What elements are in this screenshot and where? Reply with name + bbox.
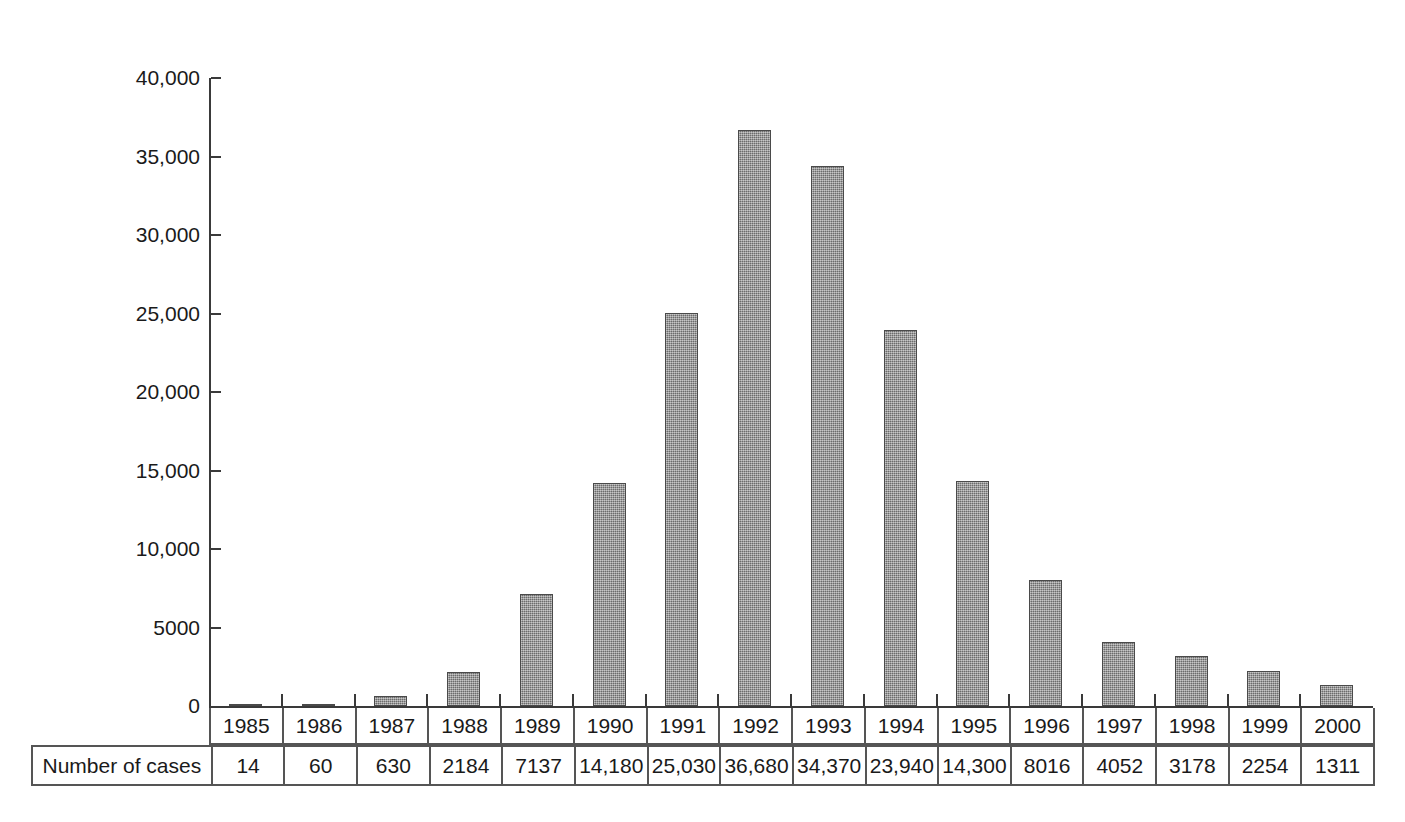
y-axis-tick-label-text: 30,000 [80, 224, 200, 245]
bar [1175, 656, 1208, 706]
bar [738, 130, 771, 706]
value-cell: 23,940 [865, 747, 938, 784]
y-axis-tick-label: 15,000 [60, 460, 200, 481]
column-tick [790, 694, 792, 707]
y-axis-tick-label: 25,000 [60, 303, 200, 324]
y-axis-tick-label: 5000 [60, 617, 200, 638]
bar [520, 594, 553, 706]
y-axis-tick-label: 20,000 [60, 381, 200, 402]
year-header-row: 1985198619871988198919901991199219931994… [209, 708, 1375, 745]
year-cell: 1986 [282, 708, 355, 743]
column-tick [645, 694, 647, 707]
value-cell: 2184 [429, 747, 502, 784]
bar [1247, 671, 1280, 706]
column-tick [1227, 694, 1229, 707]
bar [1320, 685, 1353, 706]
bar [1029, 580, 1062, 706]
values-row: Number of cases 14606302184713714,18025,… [31, 745, 1375, 786]
bar [956, 481, 989, 706]
y-axis-tick-label: 10,000 [60, 538, 200, 559]
plot-area: 0500010,00015,00020,00025,00030,00035,00… [0, 0, 1405, 822]
y-axis-tick [211, 470, 221, 472]
y-axis-tick [211, 627, 221, 629]
bar [447, 672, 480, 706]
column-tick [426, 694, 428, 707]
row-label-number-of-cases: Number of cases [33, 747, 211, 784]
year-cell: 1993 [791, 708, 864, 743]
value-cell: 4052 [1082, 747, 1155, 784]
bar [665, 313, 698, 706]
y-axis-tick-label-text: 35,000 [80, 146, 200, 167]
column-tick [1081, 694, 1083, 707]
y-axis-tick [211, 234, 221, 236]
year-cell: 1997 [1082, 708, 1155, 743]
column-tick [1008, 694, 1010, 707]
value-cell: 25,030 [647, 747, 720, 784]
bar [374, 696, 407, 706]
y-axis-tick-label-text: 40,000 [80, 67, 200, 88]
chart-figure: 0500010,00015,00020,00025,00030,00035,00… [0, 0, 1405, 822]
year-cell: 1988 [427, 708, 500, 743]
year-cell: 1989 [500, 708, 573, 743]
value-cell: 3178 [1155, 747, 1228, 784]
bar [229, 704, 262, 706]
year-cell: 1998 [1155, 708, 1228, 743]
y-axis-tick [211, 156, 221, 158]
value-cell: 34,370 [792, 747, 865, 784]
value-cell: 36,680 [719, 747, 792, 784]
y-axis-tick-label-text: 15,000 [80, 460, 200, 481]
column-tick [1154, 694, 1156, 707]
bar [811, 166, 844, 706]
year-cell: 1996 [1009, 708, 1082, 743]
y-axis-tick [211, 548, 221, 550]
value-cell: 2254 [1228, 747, 1301, 784]
y-axis-tick-label-text: 0 [80, 695, 200, 716]
y-axis-tick-label: 30,000 [60, 224, 200, 245]
year-cell: 1991 [646, 708, 719, 743]
year-cell: 1985 [209, 708, 282, 743]
column-tick [936, 694, 938, 707]
year-cell: 1995 [937, 708, 1010, 743]
year-cell: 2000 [1300, 708, 1373, 743]
value-cell: 14 [211, 747, 284, 784]
column-tick [572, 694, 574, 707]
y-axis-tick-label-text: 10,000 [80, 538, 200, 559]
value-cell: 14,180 [574, 747, 647, 784]
y-axis-tick-label: 0 [60, 695, 200, 716]
bar [302, 704, 335, 706]
bar [593, 483, 626, 706]
bar [884, 330, 917, 706]
column-tick [863, 694, 865, 707]
column-tick [499, 694, 501, 707]
value-cell: 8016 [1010, 747, 1083, 784]
y-axis-tick-label: 35,000 [60, 146, 200, 167]
value-cell: 7137 [501, 747, 574, 784]
column-tick [717, 694, 719, 707]
column-tick [281, 694, 283, 707]
column-tick [1299, 694, 1301, 707]
y-axis-line [209, 78, 211, 708]
y-axis-tick-label: 40,000 [60, 67, 200, 88]
y-axis-tick-label-text: 25,000 [80, 303, 200, 324]
value-cell: 60 [283, 747, 356, 784]
bar [1102, 642, 1135, 706]
y-axis-tick-label-text: 5000 [80, 617, 200, 638]
y-axis-tick [211, 77, 221, 79]
year-cell: 1987 [355, 708, 428, 743]
y-axis-tick [211, 391, 221, 393]
value-cell: 630 [356, 747, 429, 784]
year-cell: 1992 [718, 708, 791, 743]
year-cell: 1994 [864, 708, 937, 743]
y-axis-tick-label-text: 20,000 [80, 381, 200, 402]
value-cell: 14,300 [937, 747, 1010, 784]
y-axis-tick [211, 313, 221, 315]
value-cell: 1311 [1300, 747, 1373, 784]
year-cell: 1990 [573, 708, 646, 743]
year-cell: 1999 [1228, 708, 1301, 743]
column-tick [354, 694, 356, 707]
